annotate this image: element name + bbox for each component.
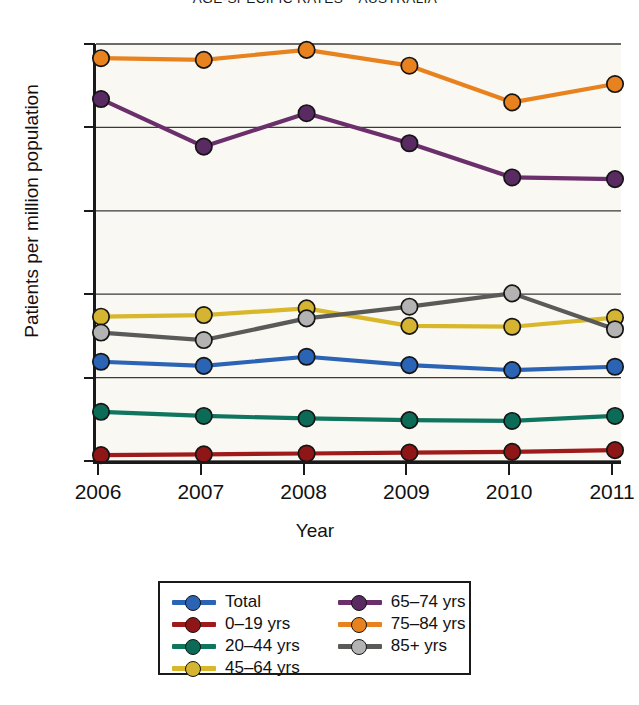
legend-swatch-icon <box>338 638 382 654</box>
data-point <box>401 318 417 334</box>
data-point <box>504 362 520 378</box>
data-point <box>196 307 212 323</box>
data-point <box>607 76 623 92</box>
y-tick-mark-200 <box>84 293 95 295</box>
x-tick-mark-2006 <box>97 464 99 475</box>
x-tick-mark-2011 <box>611 464 613 475</box>
series-markers <box>93 42 623 464</box>
legend-swatch-icon <box>172 616 216 632</box>
x-tick-mark-2008 <box>303 464 305 475</box>
data-point <box>93 354 109 370</box>
x-tick-label-2007: 2007 <box>156 480 246 504</box>
legend-item-0-19-yrs[interactable]: 0–19 yrs <box>172 614 338 633</box>
data-point <box>504 169 520 185</box>
legend-swatch-icon <box>172 638 216 654</box>
legend-item-20-44-yrs[interactable]: 20–44 yrs <box>172 636 338 655</box>
x-tick-mark-2009 <box>405 464 407 475</box>
data-point <box>93 309 109 325</box>
data-point <box>401 357 417 373</box>
data-point <box>196 408 212 424</box>
legend-label: 20–44 yrs <box>225 636 300 656</box>
x-axis-label: Year <box>0 520 630 542</box>
data-point <box>93 91 109 107</box>
data-point <box>504 319 520 335</box>
x-tick-mark-2007 <box>200 464 202 475</box>
x-tick-label-2008: 2008 <box>259 480 349 504</box>
y-tick-mark-100 <box>84 377 95 379</box>
x-tick-label-2011: 2011 <box>567 480 639 504</box>
y-tick-mark-400 <box>84 126 95 128</box>
series-line-65-74-yrs <box>101 99 615 179</box>
series-line-total <box>101 357 615 370</box>
data-point <box>298 310 314 326</box>
legend-item-65-74-yrs[interactable]: 65–74 yrs <box>338 592 469 611</box>
legend-column-right: 65–74 yrs75–84 yrs85+ yrs <box>338 592 469 673</box>
data-point <box>401 412 417 428</box>
legend-swatch-icon <box>172 594 216 610</box>
legend-label: Total <box>225 592 261 612</box>
data-point <box>607 321 623 337</box>
legend-swatch-icon <box>338 594 382 610</box>
x-tick-label-2006: 2006 <box>53 480 143 504</box>
plot-svg <box>96 44 621 461</box>
data-point <box>196 332 212 348</box>
legend-swatch-icon <box>172 660 216 676</box>
legend-item-45-64-yrs[interactable]: 45–64 yrs <box>172 658 338 677</box>
data-point <box>401 299 417 315</box>
data-point <box>504 413 520 429</box>
x-tick-mark-2010 <box>508 464 510 475</box>
data-point <box>298 445 314 461</box>
data-point <box>298 42 314 58</box>
legend-label: 0–19 yrs <box>225 614 290 634</box>
series-line-0-19-yrs <box>101 450 615 455</box>
data-point <box>196 52 212 68</box>
data-point <box>607 408 623 424</box>
data-point <box>196 138 212 154</box>
gridlines <box>96 44 621 461</box>
data-point <box>607 359 623 375</box>
y-tick-mark-500 <box>84 43 95 45</box>
legend-item-total[interactable]: Total <box>172 592 338 611</box>
data-point <box>504 444 520 460</box>
data-point <box>401 57 417 73</box>
legend: Total0–19 yrs20–44 yrs45–64 yrs 65–74 yr… <box>158 581 471 675</box>
legend-label: 65–74 yrs <box>391 592 466 612</box>
legend-label: 85+ yrs <box>391 636 447 656</box>
y-axis-label: Patients per million population <box>21 1 43 421</box>
legend-column-left: Total0–19 yrs20–44 yrs45–64 yrs <box>172 592 338 673</box>
data-point <box>93 324 109 340</box>
series-lines <box>101 50 615 455</box>
data-point <box>504 94 520 110</box>
series-line-75-84-yrs <box>101 50 615 103</box>
data-point <box>93 404 109 420</box>
x-axis-line <box>93 461 621 464</box>
plot-area <box>93 44 621 461</box>
data-point <box>298 410 314 426</box>
legend-label: 75–84 yrs <box>391 614 466 634</box>
legend-swatch-icon <box>338 616 382 632</box>
legend-label: 45–64 yrs <box>225 658 300 678</box>
data-point <box>607 171 623 187</box>
data-point <box>607 442 623 458</box>
data-point <box>196 358 212 374</box>
x-tick-label-2009: 2009 <box>361 480 451 504</box>
data-point <box>401 135 417 151</box>
data-point <box>401 444 417 460</box>
x-tick-label-2010: 2010 <box>464 480 554 504</box>
data-point <box>298 349 314 365</box>
data-point <box>504 285 520 301</box>
chart-title: AGE-SPECIFIC RATES – AUSTRALIA <box>0 0 630 6</box>
series-line-20-44-yrs <box>101 412 615 421</box>
y-tick-mark-300 <box>84 210 95 212</box>
data-point <box>298 105 314 121</box>
legend-item-85-yrs[interactable]: 85+ yrs <box>338 636 469 655</box>
data-point <box>93 50 109 66</box>
legend-item-75-84-yrs[interactable]: 75–84 yrs <box>338 614 469 633</box>
